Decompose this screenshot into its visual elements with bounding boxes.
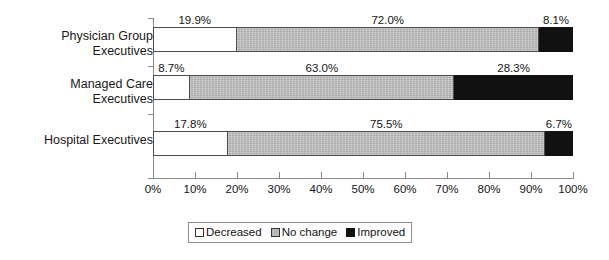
bar-segment-no-change [190, 75, 455, 100]
data-label-no-change: 75.5% [370, 118, 403, 130]
value-axis-tick [489, 172, 490, 178]
black-square-icon [346, 228, 355, 237]
value-axis-tick-label: 100% [558, 182, 587, 196]
white-square-icon [195, 228, 204, 237]
legend-item-label: Improved [357, 226, 405, 239]
bar-segment-decreased [153, 27, 237, 52]
value-axis-tick-label: 70% [435, 182, 458, 196]
legend-item-improved[interactable]: Improved [346, 226, 405, 239]
value-axis-tick-label: 0% [145, 182, 162, 196]
bar-segment-no-change [237, 27, 539, 52]
plot-area: 19.9%72.0%8.1%8.7%63.0%28.3%17.8%75.5%6.… [153, 18, 573, 178]
bar-segment-improved [545, 131, 573, 156]
value-axis-tick-label: 10% [183, 182, 206, 196]
bar-row [153, 27, 573, 52]
stacked-bar-chart: Physician Group Executives Managed Care … [0, 0, 609, 260]
value-axis-tick [531, 172, 532, 178]
value-axis-tick [363, 172, 364, 178]
value-axis-tick-label: 40% [309, 182, 332, 196]
bar-segment-no-change [228, 131, 545, 156]
value-axis-tick [279, 172, 280, 178]
legend-item-label: Decreased [206, 226, 262, 239]
data-label-improved: 6.7% [546, 118, 572, 130]
data-label-decreased: 8.7% [158, 62, 184, 74]
bar-segment-improved [539, 27, 573, 52]
bar-row [153, 75, 573, 100]
value-axis-tick [447, 172, 448, 178]
value-axis-tick-label: 60% [393, 182, 416, 196]
data-label-improved: 28.3% [497, 62, 530, 74]
bar-row [153, 131, 573, 156]
value-axis-tick-label: 50% [351, 182, 374, 196]
value-axis-tick [573, 172, 574, 178]
value-axis-tick [195, 172, 196, 178]
legend-item-no-change[interactable]: No change [271, 226, 338, 239]
value-axis-tick [237, 172, 238, 178]
category-label-physician-group-executives: Physician Group Executives [0, 29, 153, 59]
data-label-no-change: 63.0% [306, 62, 339, 74]
bar-segment-improved [454, 75, 573, 100]
value-axis-tick-label: 20% [225, 182, 248, 196]
value-axis-tick-label: 90% [519, 182, 542, 196]
data-label-improved: 8.1% [543, 14, 569, 26]
bar-segment-decreased [153, 131, 228, 156]
category-label-managed-care-executives: Managed Care Executives [0, 77, 153, 107]
chart-legend: DecreasedNo changeImproved [188, 222, 412, 243]
value-axis-tick [153, 172, 154, 178]
data-label-decreased: 19.9% [178, 14, 211, 26]
category-label-hospital-executives: Hospital Executives [0, 133, 153, 148]
value-axis-tick [321, 172, 322, 178]
value-axis-tick-label: 30% [267, 182, 290, 196]
value-axis-tick-label: 80% [477, 182, 500, 196]
legend-item-label: No change [282, 226, 338, 239]
value-axis-line [153, 178, 574, 179]
data-label-decreased: 17.8% [174, 118, 207, 130]
legend-item-decreased[interactable]: Decreased [195, 226, 262, 239]
value-axis-tick [405, 172, 406, 178]
gray-square-icon [271, 228, 280, 237]
data-label-no-change: 72.0% [371, 14, 404, 26]
bar-segment-decreased [153, 75, 190, 100]
